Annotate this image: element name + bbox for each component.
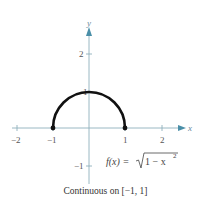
x-tick-label: −2 — [11, 135, 21, 145]
svg-text:1 − x: 1 − x — [145, 156, 166, 167]
x-tick-label: 1 — [123, 135, 128, 145]
function-graph: x y −2 −1 1 2 2 1 −1 f(x) = 1 − x 2 — [0, 0, 211, 207]
x-axis-arrow-icon — [178, 125, 186, 131]
endpoint-left — [51, 126, 56, 131]
x-tick-label: 2 — [160, 135, 165, 145]
svg-text:2: 2 — [173, 152, 177, 160]
y-tick-label: −1 — [74, 161, 84, 171]
x-axis-label: x — [187, 123, 192, 133]
y-axis-label: y — [86, 18, 91, 28]
endpoint-right — [123, 126, 128, 131]
continuity-caption: Continuous on [−1, 1] — [0, 186, 211, 196]
x-tick-label: −1 — [47, 135, 57, 145]
y-tick-label: 2 — [79, 49, 84, 59]
svg-text:f(x) =: f(x) = — [106, 156, 129, 168]
function-label: f(x) = 1 − x 2 — [106, 152, 178, 168]
y-axis-arrow-icon — [86, 27, 92, 36]
